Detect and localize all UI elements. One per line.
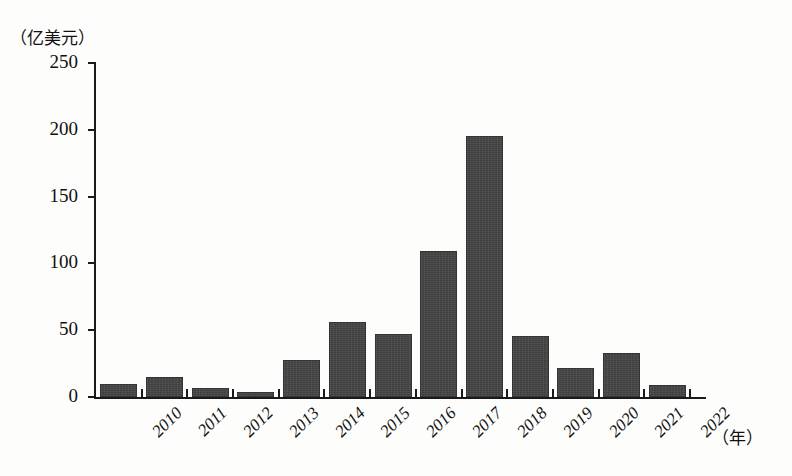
x-axis-label-2013: 2013 — [286, 404, 322, 440]
bar-2022 — [649, 385, 686, 397]
x-axis-tick — [598, 389, 600, 398]
x-axis-label-2017: 2017 — [469, 404, 505, 440]
y-axis-tick-150 — [88, 196, 96, 198]
y-axis-line — [94, 62, 96, 399]
x-axis-label-2014: 2014 — [332, 404, 368, 440]
y-axis-tick-100 — [88, 262, 96, 264]
x-axis-tick — [323, 389, 325, 398]
x-axis-tick — [643, 389, 645, 398]
x-axis-label-2010: 2010 — [149, 404, 185, 440]
bar-2012 — [192, 388, 229, 397]
x-axis-label-2020: 2020 — [606, 404, 642, 440]
bar-2018 — [466, 136, 503, 397]
y-axis-tick-0 — [88, 396, 96, 398]
x-axis-unit-caption: （年） — [712, 424, 763, 449]
y-axis-tick-label: 50 — [26, 319, 78, 338]
x-axis-tick — [552, 389, 554, 398]
x-axis-label-2021: 2021 — [651, 404, 687, 440]
y-axis-tick-50 — [88, 329, 96, 331]
x-axis-tick — [689, 389, 691, 398]
bar-2019 — [512, 336, 549, 397]
y-axis-tick-200 — [88, 129, 96, 131]
bar-2020 — [557, 368, 594, 397]
bar-chart-figure: （亿美元） 050100150200250 201020112012201320… — [0, 0, 792, 476]
x-axis-tick — [415, 389, 417, 398]
y-axis-tick-label: 100 — [26, 252, 78, 271]
x-axis-tick — [461, 389, 463, 398]
bar-2011 — [146, 377, 183, 397]
bar-2015 — [329, 322, 366, 397]
bar-2021 — [603, 353, 640, 397]
x-axis-tick — [278, 389, 280, 398]
x-axis-label-2019: 2019 — [560, 404, 596, 440]
y-axis-unit-caption: （亿美元） — [10, 24, 95, 49]
x-axis-label-2011: 2011 — [194, 404, 229, 439]
bar-2017 — [420, 251, 457, 397]
y-axis-tick-250 — [88, 62, 96, 64]
x-axis-label-2018: 2018 — [514, 404, 550, 440]
bar-2016 — [375, 334, 412, 397]
x-axis-label-2015: 2015 — [377, 404, 413, 440]
x-axis-label-2016: 2016 — [423, 404, 459, 440]
x-axis-tick — [506, 389, 508, 398]
y-axis-tick-label: 250 — [26, 52, 78, 71]
bar-2014 — [283, 360, 320, 397]
y-axis-tick-label: 150 — [26, 186, 78, 205]
x-axis-tick — [369, 389, 371, 398]
bar-2013 — [237, 392, 274, 397]
y-axis-tick-label: 200 — [26, 119, 78, 138]
x-axis-tick — [232, 389, 234, 398]
y-axis-tick-label: 0 — [26, 386, 78, 405]
bar-2010 — [100, 384, 137, 397]
x-axis-tick — [141, 389, 143, 398]
x-axis-tick — [186, 389, 188, 398]
x-axis-label-2012: 2012 — [240, 404, 276, 440]
